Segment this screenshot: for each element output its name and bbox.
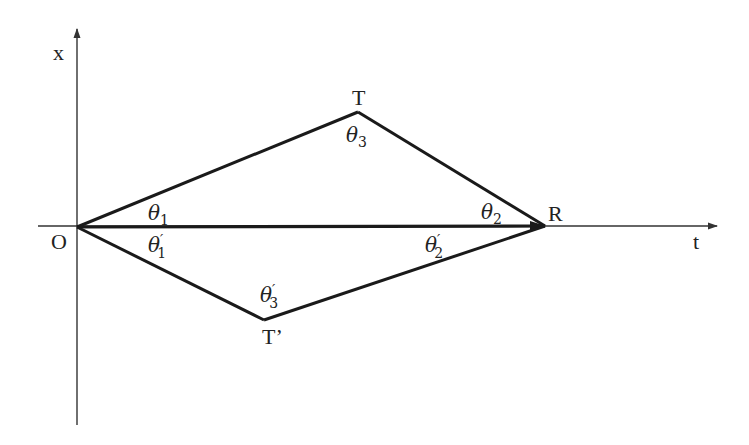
t-axis-label: t [693,229,699,254]
x-axis-label: x [53,40,64,65]
angle-theta2-prime: θ′2 [425,232,443,261]
angle-theta3-prime: θ′3 [260,282,278,311]
point-r-label: R [548,201,563,226]
point-o-label: O [51,229,67,254]
segment-t-r [358,112,545,226]
segment-o-tprime [77,227,264,320]
angle-theta3: θ3 [346,123,367,150]
spacetime-diagram: x t O T R T’ θ1 θ2 θ3 θ′1 θ′2 θ′3 [0,0,749,445]
angle-theta1: θ1 [148,201,169,228]
point-tprime-label: T’ [262,324,283,349]
segment-tprime-r [264,226,545,320]
point-t-label: T [352,85,366,110]
angle-theta2: θ2 [481,200,502,227]
angle-theta1-prime: θ′1 [148,232,166,261]
segment-o-r [77,226,545,227]
segment-o-t [77,112,358,227]
